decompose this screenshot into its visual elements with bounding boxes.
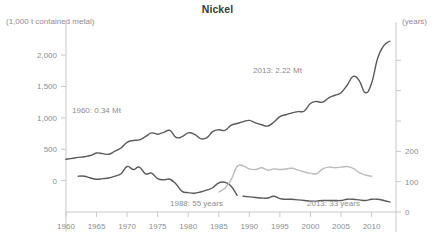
y-axis-left-tick-label: 0 <box>53 177 58 186</box>
series-line <box>219 165 372 192</box>
x-axis-tick-label: 1970 <box>118 222 136 231</box>
x-axis-tick-label: 1985 <box>210 222 228 231</box>
y-axis-right-tick-label: 100 <box>405 178 419 187</box>
right-axis: 0100200 <box>396 22 419 232</box>
x-axis-tick-label: 2005 <box>332 222 350 231</box>
x-axis-tick-label: 1975 <box>149 222 167 231</box>
chart-annotation-reserve-life-2013: 2013: 33 years <box>307 199 360 208</box>
x-axis-tick-label: 1965 <box>88 222 106 231</box>
chart-annotation-reserve-life-1988: 1988: 55 years <box>170 199 223 208</box>
left-axis: 05001,0001,5002,000 <box>37 22 66 232</box>
nickel-production-chart: Nickel (1,000 t contained metal) (years)… <box>0 0 435 244</box>
x-axis-tick-label: 1990 <box>240 222 258 231</box>
data-series-group <box>66 41 390 202</box>
y-axis-left-tick-label: 2,000 <box>37 51 58 60</box>
x-axis-tick-label: 1960 <box>57 222 75 231</box>
x-axis: 1960196519701975198019851990199520002005… <box>57 212 396 231</box>
chart-annotation-production-start: 1960: 0.34 Mt <box>72 106 121 115</box>
y-axis-left-tick-label: 1,500 <box>37 82 58 91</box>
y-axis-right-tick-label: 200 <box>405 147 419 156</box>
series-line <box>78 166 237 195</box>
y-axis-left-tick-label: 500 <box>44 145 58 154</box>
y-axis-left-tick-label: 1,000 <box>37 114 58 123</box>
series-line <box>66 41 390 159</box>
x-axis-tick-label: 1995 <box>271 222 289 231</box>
chart-annotation-production-end: 2013: 2.22 Mt <box>253 66 302 75</box>
x-axis-tick-label: 1980 <box>179 222 197 231</box>
x-axis-tick-label: 2010 <box>363 222 381 231</box>
y-axis-right-tick-label: 0 <box>405 208 410 217</box>
x-axis-tick-label: 2000 <box>302 222 320 231</box>
